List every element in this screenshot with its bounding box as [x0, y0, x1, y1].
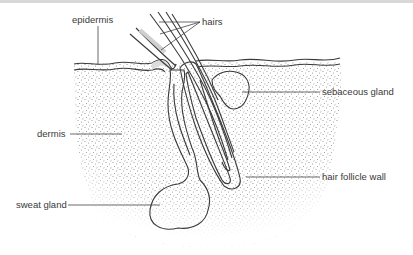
label-hair-follicle-wall: hair follicle wall: [322, 171, 386, 182]
label-dermis: dermis: [37, 128, 66, 139]
label-hairs: hairs: [202, 16, 223, 27]
label-sebaceous-gland: sebaceous gland: [322, 86, 394, 97]
label-sweat-gland: sweat gland: [16, 199, 67, 210]
skin-diagram: epidermis hairs sebaceous gland dermis h…: [0, 0, 413, 255]
label-epidermis: epidermis: [72, 14, 113, 25]
